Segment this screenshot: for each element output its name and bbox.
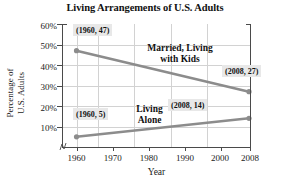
y-tick-label-60: 60% [16, 21, 57, 31]
x-tick-mark-1970 [113, 147, 114, 151]
series-label-married-living-with-kids: Married, Living with Kids [130, 43, 230, 64]
annotation-1960-5: (1960, 5) [73, 108, 108, 120]
x-tick-mark-1960 [77, 147, 78, 151]
plot-top-right-tick [246, 24, 251, 25]
x-tick-label-1980: 1980 [129, 153, 169, 163]
x-tick-mark-2008 [250, 147, 251, 151]
data-point-living-alone-1960 [74, 134, 79, 139]
annotation-1960-47: (1960, 47) [73, 24, 112, 36]
x-tick-mark-1990 [185, 147, 186, 151]
x-tick-label-1970: 1970 [93, 153, 133, 163]
x-axis-title: Year [62, 167, 251, 177]
x-axis-line [62, 147, 251, 148]
x-tick-mark-2000 [221, 147, 222, 151]
y-tick-label-20: 20% [16, 103, 57, 113]
y-tick-label-50: 50% [16, 41, 57, 51]
plot-top-left-tick [62, 24, 67, 25]
chart-title: Living Arrangements of U.S. Adults [0, 2, 290, 13]
y-tick-label-30: 30% [16, 82, 57, 92]
annotation-2008-27: (2008, 27) [222, 65, 261, 77]
series-label-alone-line-2: Alone [122, 115, 177, 126]
chart-container: Living Arrangements of U.S. Adults Perce… [0, 0, 290, 186]
y-tick-label-40: 40% [16, 62, 57, 72]
x-tick-mark-1980 [149, 147, 150, 151]
y-axis-title-line-1: Percentage of [5, 68, 16, 117]
plot-right-border [250, 24, 251, 147]
x-tick-label-2008: 2008 [230, 153, 270, 163]
y-axis-line [62, 24, 63, 147]
series-label-married-line-1: Married, Living [130, 43, 230, 54]
axis-break-icon [58, 141, 68, 151]
x-tick-label-1990: 1990 [165, 153, 205, 163]
data-point-married-1960 [74, 48, 79, 53]
x-tick-label-1960: 1960 [57, 153, 97, 163]
y-tick-label-10: 10% [16, 123, 57, 133]
series-label-married-line-2: with Kids [130, 54, 230, 65]
annotation-2008-14: (2008, 14) [168, 99, 207, 111]
